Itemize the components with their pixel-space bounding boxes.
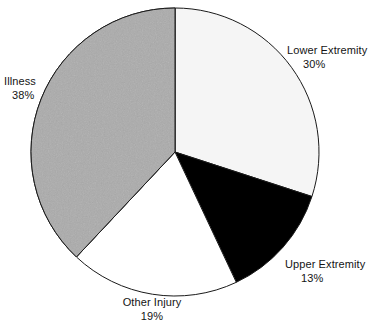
pie-label-other-injury-value: 19%	[110, 310, 194, 324]
pie-chart: Lower Extremity 30% Upper Extremity 13% …	[0, 0, 372, 324]
pie-label-upper-extremity-name: Upper Extremity	[285, 258, 365, 272]
pie-label-illness-value: 38%	[4, 89, 36, 103]
pie-label-other-injury: Other Injury 19%	[110, 296, 194, 323]
pie-label-lower-extremity: Lower Extremity 30%	[287, 44, 367, 71]
pie-label-lower-extremity-value: 30%	[287, 58, 367, 72]
pie-label-lower-extremity-name: Lower Extremity	[287, 44, 367, 58]
pie-label-other-injury-name: Other Injury	[110, 296, 194, 310]
pie-label-upper-extremity: Upper Extremity 13%	[285, 258, 365, 285]
pie-label-illness-name: Illness	[4, 75, 36, 89]
pie-label-upper-extremity-value: 13%	[285, 272, 365, 286]
pie-label-illness: Illness 38%	[4, 75, 36, 102]
